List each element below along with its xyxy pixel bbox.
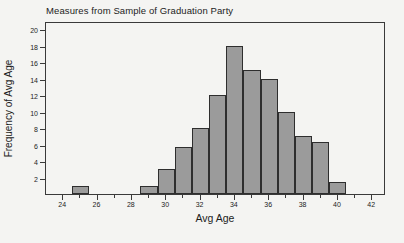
x-tick-label: 32 [196,201,204,208]
y-tick-label: 2 [34,175,38,182]
x-tick-label: 38 [299,201,307,208]
histogram-bar [329,182,346,194]
histogram-bar [140,186,157,194]
page-title: Measures from Sample of Graduation Party [46,5,233,16]
x-tick-mark [165,195,166,200]
x-tick-mark [371,195,372,200]
x-axis-title: Avg Age [45,212,385,224]
x-tick-label: 26 [93,201,101,208]
histogram-bar [278,112,295,194]
x-tick-mark [268,195,269,200]
plot-area [46,23,384,194]
y-tick-label: 16 [30,60,38,67]
y-tick-label: 6 [34,142,38,149]
chart-page: Measures from Sample of Graduation Party… [0,0,404,243]
x-tick-mark [131,195,132,200]
histogram-bar [158,169,175,194]
x-tick-label: 40 [333,201,341,208]
x-tick-mark-minor [354,195,355,198]
x-tick-mark [303,195,304,200]
x-tick-label: 34 [230,201,238,208]
x-tick-mark-minor [182,195,183,198]
histogram-bar [192,128,209,194]
y-tick-label: 4 [34,159,38,166]
x-tick-mark-minor [217,195,218,198]
x-tick-mark-minor [79,195,80,198]
histogram-bar [72,186,89,194]
x-tick-label: 24 [58,201,66,208]
x-tick-label: 42 [367,201,375,208]
y-tick-label: 18 [30,43,38,50]
y-tick-label: 12 [30,93,38,100]
histogram-bar [226,46,243,194]
x-tick-label: 30 [161,201,169,208]
x-tick-mark-minor [285,195,286,198]
y-tick-label: 10 [30,109,38,116]
histogram-bar [312,142,329,194]
x-tick-mark [97,195,98,200]
histogram-bar [175,147,192,194]
x-tick-mark [200,195,201,200]
x-tick-label: 28 [127,201,135,208]
x-tick-label: 36 [264,201,272,208]
histogram-bar [295,136,312,194]
x-tick-mark-minor [114,195,115,198]
plot-frame [45,22,385,195]
x-tick-mark [62,195,63,200]
histogram-bar [209,95,226,194]
x-tick-mark-minor [251,195,252,198]
y-axis: 2468101214161820 [0,22,45,195]
histogram-bar [261,79,278,194]
y-tick-label: 20 [30,27,38,34]
y-tick-label: 8 [34,126,38,133]
histogram-bar [243,70,260,194]
x-tick-mark [337,195,338,200]
x-tick-mark-minor [148,195,149,198]
y-tick-label: 14 [30,76,38,83]
x-tick-mark [234,195,235,200]
x-tick-mark-minor [320,195,321,198]
